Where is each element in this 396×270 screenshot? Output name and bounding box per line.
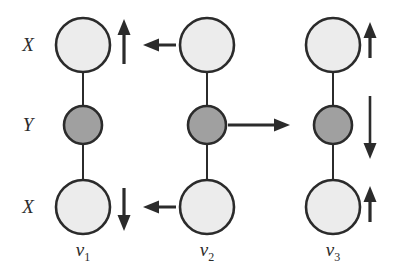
atom-label-x-bottom: X — [17, 197, 39, 216]
mode-label-nu1: ν1 — [63, 240, 103, 263]
atom-y-middle — [64, 106, 102, 144]
atom-y-middle — [188, 106, 226, 144]
mode-label-nu3-symbol: ν — [326, 239, 334, 260]
atom-x-bottom — [180, 180, 234, 234]
atom-label-y-middle: Y — [17, 115, 39, 134]
mode-label-nu2-subscript: 2 — [208, 250, 214, 264]
atom-x-top — [56, 18, 110, 72]
mode-label-nu2-symbol: ν — [200, 239, 208, 260]
mode-label-nu2: ν2 — [187, 240, 227, 263]
mode-label-nu1-symbol: ν — [76, 239, 84, 260]
atom-x-top — [306, 18, 360, 72]
atom-label-x-top: X — [17, 35, 39, 54]
mode-label-nu3-subscript: 3 — [334, 250, 340, 264]
mode-label-nu1-subscript: 1 — [84, 250, 90, 264]
atom-x-bottom — [306, 180, 360, 234]
atom-x-bottom — [56, 180, 110, 234]
mode-label-nu3: ν3 — [313, 240, 353, 263]
atom-x-top — [180, 18, 234, 72]
atom-y-middle — [314, 106, 352, 144]
vibrational-modes-diagram — [0, 0, 396, 270]
